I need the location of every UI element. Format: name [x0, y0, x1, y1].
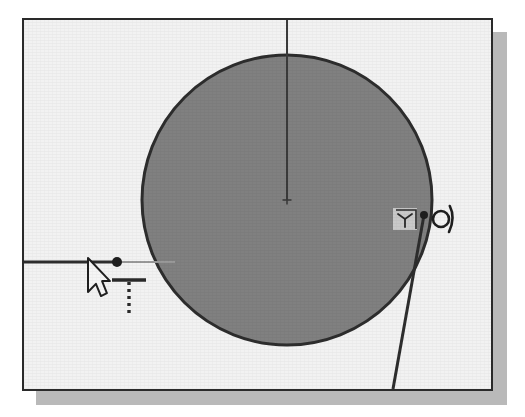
- sketch-window[interactable]: [22, 18, 493, 391]
- screenshot-root: [0, 0, 525, 417]
- tangent-point-node[interactable]: [420, 211, 428, 219]
- tangent-constraint-cursor-badge: [393, 208, 417, 230]
- sketch-canvas[interactable]: [24, 20, 491, 389]
- line-endpoint-node[interactable]: [112, 257, 122, 267]
